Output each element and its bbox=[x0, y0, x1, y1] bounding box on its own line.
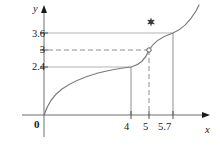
axes bbox=[22, 5, 210, 137]
y-tick-label-2.4: 2.4 bbox=[32, 62, 45, 73]
tick-marks bbox=[40, 33, 173, 119]
y-tick-label-3: 3 bbox=[40, 45, 45, 56]
x-tick-label-4: 4 bbox=[124, 122, 129, 133]
point-markers bbox=[147, 48, 151, 52]
x-tick-label-5.7: 5.7 bbox=[158, 122, 171, 133]
y-tick-label-3.6: 3.6 bbox=[32, 29, 45, 40]
x-axis-arrow-icon bbox=[202, 112, 210, 118]
open-circle-marker-5-3 bbox=[147, 48, 151, 52]
chart-plot-area bbox=[0, 0, 220, 148]
asterisk-annotation-icon bbox=[148, 18, 155, 26]
x-axis-label: x bbox=[205, 125, 210, 136]
data-curve bbox=[44, 5, 199, 115]
y-axis-arrow-icon bbox=[41, 5, 47, 13]
x-tick-label-5: 5 bbox=[143, 122, 148, 133]
chart-figure: 3.6 3 2.4 4 5 5.7 y x 0 bbox=[0, 0, 220, 148]
y-axis-label: y bbox=[33, 4, 38, 15]
origin-label: 0 bbox=[34, 119, 40, 130]
